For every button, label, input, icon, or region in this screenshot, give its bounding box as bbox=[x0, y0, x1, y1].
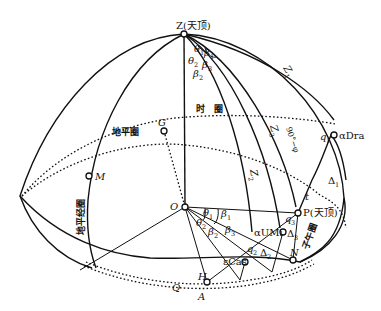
label-z: Z(天顶) bbox=[176, 20, 211, 31]
label-m: M bbox=[94, 171, 106, 182]
label-alpha-dra: αDra bbox=[339, 130, 365, 141]
label-a: A bbox=[197, 291, 205, 302]
svg-text:1: 1 bbox=[335, 181, 339, 189]
label-horizon-circle: 地平圈 bbox=[112, 126, 139, 137]
label-beta1-o: β1 bbox=[220, 208, 231, 222]
svg-text:3: 3 bbox=[291, 219, 295, 227]
point-o bbox=[182, 204, 188, 210]
svg-text:3: 3 bbox=[267, 132, 276, 138]
label-beta2-top: β2 bbox=[192, 68, 203, 82]
svg-text:2: 2 bbox=[246, 176, 255, 181]
svg-text:β: β bbox=[192, 68, 199, 79]
label-o: O bbox=[170, 201, 178, 212]
point-z bbox=[181, 31, 187, 37]
g-to-o-line bbox=[164, 131, 185, 207]
svg-text:β: β bbox=[201, 59, 208, 70]
svg-text:β: β bbox=[203, 47, 210, 58]
label-q1: q1 bbox=[320, 131, 330, 145]
svg-text:2: 2 bbox=[199, 74, 203, 82]
label-colatitude: 90°−φ bbox=[284, 126, 301, 154]
label-z2: Z2 bbox=[245, 167, 261, 181]
svg-text:2: 2 bbox=[267, 253, 271, 261]
label-beta3-top: β3 bbox=[201, 59, 212, 73]
line-o-p bbox=[185, 207, 298, 213]
arc-colatitude bbox=[184, 34, 296, 207]
zenith-axis bbox=[184, 34, 185, 207]
svg-text:β: β bbox=[207, 226, 214, 237]
label-z1: Z1 bbox=[278, 63, 296, 81]
label-epsilon-cas: εCas bbox=[223, 256, 247, 267]
svg-text:3: 3 bbox=[294, 234, 298, 242]
label-h: H bbox=[197, 271, 207, 282]
svg-text:1: 1 bbox=[209, 213, 213, 221]
label-theta2-o: θ2 bbox=[196, 217, 206, 231]
point-m bbox=[86, 173, 92, 179]
label-p: P(天顶) bbox=[303, 207, 338, 218]
label-n: N bbox=[289, 247, 300, 258]
label-horizon-meridian: 地平经圈 bbox=[75, 199, 86, 235]
line-o-left bbox=[80, 207, 185, 270]
label-delta2: Δ2 bbox=[260, 247, 271, 261]
point-g bbox=[161, 128, 167, 134]
label-alpha-umi: αUMi bbox=[254, 227, 283, 238]
label-delta1: Δ1 bbox=[328, 175, 339, 189]
svg-text:3: 3 bbox=[208, 65, 212, 73]
label-meridian: 子午圈 bbox=[300, 222, 320, 251]
label-hour-circle: 时 圈 bbox=[196, 103, 223, 114]
point-p bbox=[295, 210, 301, 216]
label-q3: q3 bbox=[285, 213, 295, 227]
point-alpha-dra bbox=[331, 132, 337, 138]
svg-text:1: 1 bbox=[210, 53, 214, 61]
label-theta2-top: θ2 bbox=[188, 55, 198, 69]
svg-text:2: 2 bbox=[202, 223, 206, 231]
label-g: G bbox=[158, 117, 166, 128]
svg-text:1: 1 bbox=[326, 137, 330, 145]
svg-text:1: 1 bbox=[227, 214, 231, 222]
svg-text:3: 3 bbox=[231, 230, 235, 238]
label-t: t bbox=[305, 191, 310, 202]
svg-text:2: 2 bbox=[214, 232, 218, 240]
label-q: Q bbox=[172, 282, 180, 293]
label-z3: Z3 bbox=[265, 123, 282, 138]
line-umi-down bbox=[272, 232, 283, 272]
svg-text:2: 2 bbox=[253, 249, 257, 257]
svg-text:β: β bbox=[220, 208, 227, 219]
svg-text:β: β bbox=[224, 224, 231, 235]
label-beta3-o: β3 bbox=[224, 224, 235, 238]
celestial-sphere-diagram: Z(天顶) O G M P(天顶) αDra αUMi εCas N H Q A… bbox=[0, 0, 381, 311]
sphere-outline-left bbox=[20, 34, 184, 268]
